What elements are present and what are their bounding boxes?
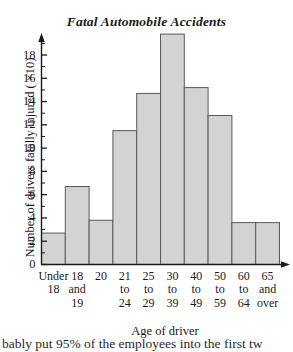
- y-tick-label: 18: [16, 49, 36, 61]
- bar: [137, 93, 161, 264]
- bars-group: [42, 34, 280, 264]
- x-tick-label-line: 65: [252, 270, 284, 284]
- bar: [232, 223, 256, 265]
- y-tick-label: 6: [16, 188, 36, 200]
- y-tick-label: 12: [16, 118, 36, 130]
- y-tick-label: 0: [16, 258, 36, 270]
- x-axis-arrow: [281, 261, 290, 267]
- bar: [256, 223, 280, 265]
- x-tick-label-line: and: [252, 283, 284, 297]
- bar: [113, 131, 137, 265]
- y-tick-label: 16: [16, 72, 36, 84]
- x-tick-label-line: and: [61, 283, 93, 297]
- histogram-figure: Fatal Automobile Accidents Number of dri…: [0, 0, 293, 352]
- bar: [184, 88, 208, 265]
- bar: [89, 220, 113, 264]
- bar: [42, 233, 66, 264]
- x-tick-label-line: 19: [61, 297, 93, 311]
- bar: [161, 34, 185, 264]
- y-tick-label: 8: [16, 165, 36, 177]
- y-axis-arrow: [38, 33, 44, 42]
- y-tick-label: 14: [16, 95, 36, 107]
- page-body-text-fragment: bably put 95% of the employees into the …: [2, 336, 293, 352]
- x-category-label: 65andover: [252, 270, 284, 311]
- bar: [65, 187, 89, 265]
- y-tick-label: 2: [16, 235, 36, 247]
- y-tick-label: 10: [16, 142, 36, 154]
- y-tick-label: 4: [16, 211, 36, 223]
- x-tick-label-line: over: [252, 297, 284, 311]
- bar: [208, 116, 232, 265]
